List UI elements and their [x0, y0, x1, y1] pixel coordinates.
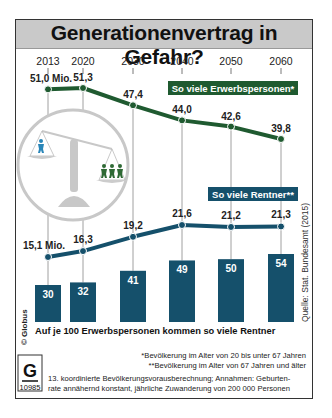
ratio-bar-value: 30 [42, 289, 54, 300]
retirees-point [278, 223, 285, 230]
footnote-1: *Bevölkerung im Alter von 20 bis unter 6… [141, 351, 306, 360]
retiree-person-icon-head [118, 164, 122, 168]
footnote-4: rate annähernd konstant, jährliche Zuwan… [48, 384, 290, 393]
retirees-value-label: 21,6 [172, 208, 192, 219]
source-label: Quelle: Stat. Bundesamt (2015) [300, 203, 310, 322]
workers-legend-label: So viele Erwerbspersonen* [172, 83, 295, 94]
retirees-point [179, 222, 186, 229]
retirees-value-label: 16,3 [73, 234, 93, 245]
year-label-2013: 2013 [36, 55, 60, 67]
workers-value-label: 39,8 [271, 123, 291, 134]
graphic-number: 10985 [20, 383, 41, 392]
workers-value-label: 51,0 Mio. [30, 73, 72, 84]
workers-point [278, 136, 285, 143]
workers-point [228, 123, 235, 130]
ratio-bar-value: 50 [225, 263, 237, 274]
retiree-person-icon-head [102, 164, 106, 168]
year-label-2040: 2040 [170, 55, 194, 67]
bars-caption: Auf je 100 Erwerbspersonen kommen so vie… [35, 326, 276, 336]
ratio-bar-value: 32 [77, 286, 89, 297]
workers-point [130, 102, 137, 109]
year-label-2030: 2030 [121, 55, 145, 67]
ratio-bar-value: 49 [176, 264, 188, 275]
workers-point [179, 117, 186, 124]
retirees-value-label: 21,2 [221, 210, 241, 221]
retirees-point [45, 254, 52, 261]
year-label-2060: 2060 [269, 55, 293, 67]
retirees-value-label: 15,1 Mio. [23, 240, 65, 251]
workers-point [45, 86, 52, 93]
retirees-value-label: 19,2 [123, 220, 143, 231]
workers-value-label: 42,6 [221, 111, 241, 122]
retirees-point [228, 223, 235, 230]
retirees-point [130, 233, 137, 240]
year-label-2020: 2020 [71, 55, 95, 67]
retirees-value-label: 21,3 [271, 209, 291, 220]
ratio-bar-value: 41 [127, 275, 139, 286]
scale-pivot [70, 139, 78, 147]
retirees-point [80, 248, 87, 255]
globus-logo-icon: G [23, 361, 37, 381]
worker-person-icon-head [39, 139, 43, 143]
scale-post [70, 142, 78, 192]
copyright-label: © Globus [20, 309, 29, 345]
year-label-2050: 2050 [219, 55, 243, 67]
workers-value-label: 47,4 [123, 89, 143, 100]
retirees-legend-label: So viele Rentner** [212, 189, 294, 200]
footnote-2: **Bevölkerung im Alter von 67 Jahren und… [149, 361, 307, 370]
workers-value-label: 44,0 [172, 104, 192, 115]
workers-point [80, 85, 87, 92]
workers-value-label: 51,3 [73, 72, 93, 83]
chart-canvas: 20132020203020402050206051,0 Mio.51,347,… [0, 0, 332, 418]
ratio-bar-value: 54 [275, 258, 287, 269]
retiree-person-icon-head [110, 164, 114, 168]
footnote-3: 13. koordinierte Bevölkerungsvorausberec… [48, 374, 291, 383]
